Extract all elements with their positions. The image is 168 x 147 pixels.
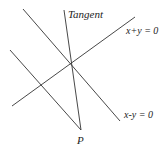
line-parallel [10, 50, 81, 130]
tangent-label: Tangent [68, 8, 104, 20]
line-x-plus-y [12, 17, 135, 106]
diagram: Tangent x+y = 0 x-y = 0 P [0, 0, 168, 147]
tangent-line [64, 10, 81, 130]
point-p-label: P [76, 134, 84, 146]
line1-label: x+y = 0 [125, 25, 158, 36]
diagram-canvas: Tangent x+y = 0 x-y = 0 P [0, 0, 168, 147]
line2-label: x-y = 0 [123, 109, 153, 120]
